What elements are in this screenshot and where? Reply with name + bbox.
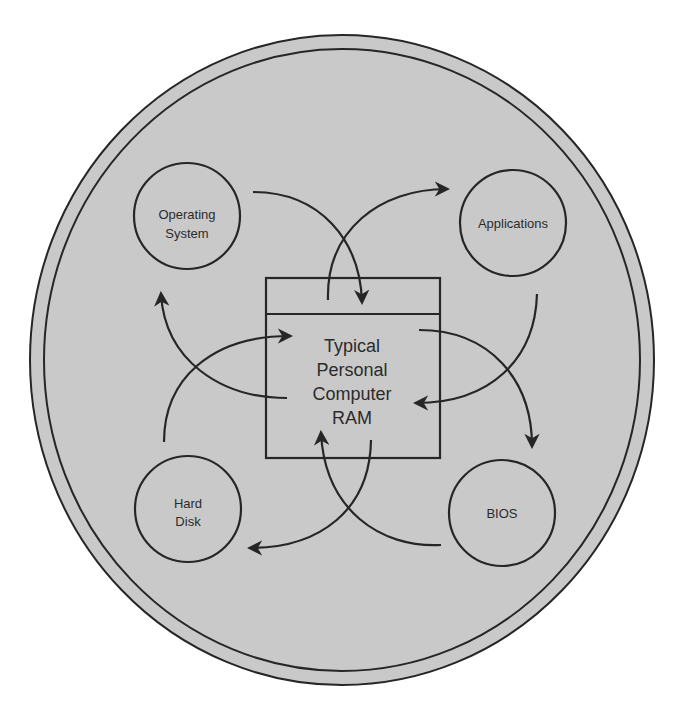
ram-flow-diagram: Typical Personal Computer RAM Operating … [0, 0, 684, 712]
ram-label-line-2: Personal [316, 360, 387, 380]
hard-disk-label-line-1: Hard [174, 496, 202, 511]
bios-label: BIOS [486, 506, 517, 521]
ram-label-line-3: Computer [312, 384, 391, 404]
os-label-line-1: Operating [158, 207, 215, 222]
hard-disk-label-line-2: Disk [175, 514, 201, 529]
os-label-line-2: System [165, 226, 208, 241]
ram-label-line-1: Typical [324, 336, 380, 356]
applications-label: Applications [478, 216, 549, 231]
ram-label-line-4: RAM [332, 408, 372, 428]
